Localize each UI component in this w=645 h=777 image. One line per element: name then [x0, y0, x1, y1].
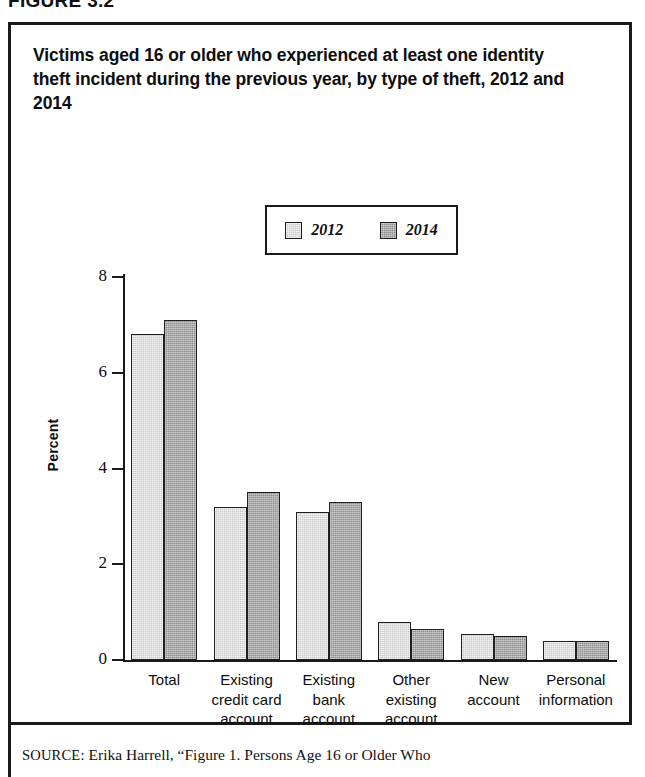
bar-2012-new-account[interactable] — [461, 634, 494, 660]
x-axis-label-line: information — [529, 690, 623, 710]
source-note: SOURCE: Erika Harrell, “Figure 1. Person… — [22, 745, 622, 765]
source-label: SOURCE: — [22, 747, 85, 763]
page-left-rule — [8, 722, 11, 777]
bar-2014-other-existing-account[interactable] — [411, 629, 444, 660]
source-text: Erika Harrell, “Figure 1. Persons Age 16… — [89, 746, 431, 763]
bar-2012-total[interactable] — [131, 334, 164, 660]
x-axis-label-line: Existing — [282, 670, 376, 690]
bar-2012-existing-bank-account[interactable] — [296, 512, 329, 660]
bar-2014-total[interactable] — [164, 320, 197, 660]
x-axis-label-personal-information: Personalinformation — [529, 670, 623, 709]
x-axis-label-new-account: Newaccount — [446, 670, 540, 709]
bar-2014-existing-credit-card-account[interactable] — [247, 492, 280, 660]
x-axis-label-line: bank — [282, 690, 376, 710]
x-axis-label-line: Personal — [529, 670, 623, 690]
bar-2014-existing-bank-account[interactable] — [329, 502, 362, 660]
x-axis-label-line: Total — [117, 670, 211, 690]
x-axis-label-line: existing — [364, 690, 458, 710]
bar-series-layer — [123, 25, 617, 728]
chart-plot-area: Percent 02468 TotalExistingcredit cardac… — [11, 25, 635, 728]
figure-number: FIGURE 3.2 — [8, 0, 114, 12]
x-axis-label-line: credit card — [199, 690, 293, 710]
x-axis-label-line: Other — [364, 670, 458, 690]
x-axis-label-line: New — [446, 670, 540, 690]
x-axis-label-line: account — [282, 709, 376, 729]
x-axis-label-line: account — [199, 709, 293, 729]
x-axis-label-total: Total — [117, 670, 211, 690]
y-axis-tick-label: 6 — [73, 362, 107, 382]
x-axis-label-other-existing-account: Otherexistingaccount — [364, 670, 458, 729]
x-axis-label-existing-bank-account: Existingbankaccount — [282, 670, 376, 729]
bar-2014-new-account[interactable] — [494, 636, 527, 660]
bar-2012-other-existing-account[interactable] — [378, 622, 411, 660]
y-axis-tick-label: 4 — [73, 458, 107, 478]
figure-panel: Victims aged 16 or older who experienced… — [8, 22, 632, 725]
x-axis-label-line: Existing — [199, 670, 293, 690]
y-axis-tick-label: 0 — [73, 649, 107, 669]
bar-2014-personal-information[interactable] — [576, 641, 609, 660]
y-axis-tick-label: 2 — [73, 553, 107, 573]
x-axis-label-line: account — [364, 709, 458, 729]
x-axis-label-line: account — [446, 690, 540, 710]
x-axis-label-existing-credit-card-account: Existingcredit cardaccount — [199, 670, 293, 729]
bar-2012-existing-credit-card-account[interactable] — [214, 507, 247, 660]
bar-2012-personal-information[interactable] — [543, 641, 576, 660]
y-axis-tick-label: 8 — [73, 266, 107, 286]
y-axis-title: Percent — [45, 405, 61, 485]
